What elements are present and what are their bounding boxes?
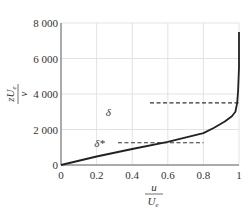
y-label-numerator: zUe xyxy=(4,86,18,102)
data-series xyxy=(61,32,239,165)
y-tick-label: 4 000 xyxy=(33,88,58,100)
y-label-denominator: ν xyxy=(17,91,29,96)
boundary-layer-chart: 00.20.40.60.8102 0004 0006 0008 000 δδ* … xyxy=(0,0,250,209)
x-tick-label: 0.4 xyxy=(125,169,139,181)
x-tick-label: 0.6 xyxy=(161,169,175,181)
x-tick-label: 0 xyxy=(58,169,64,181)
y-tick-label: 8 000 xyxy=(33,17,58,29)
y-tick-label: 6 000 xyxy=(33,53,58,65)
y-label: zUe ν xyxy=(4,84,29,104)
x-tick-label: 1 xyxy=(236,169,242,181)
velocity-profile-line xyxy=(61,32,239,165)
annotation-label: δ* xyxy=(94,137,105,149)
y-tick-label: 2 000 xyxy=(33,124,58,136)
axis-labels: u Ue zUe ν xyxy=(4,84,163,209)
x-tick-label: 0.2 xyxy=(90,169,104,181)
x-tick-label: 0.8 xyxy=(197,169,211,181)
x-label-denominator: Ue xyxy=(147,195,158,209)
x-label-numerator: u xyxy=(151,181,157,193)
tick-labels: 00.20.40.60.8102 0004 0006 0008 000 xyxy=(33,17,242,181)
y-tick-label: 0 xyxy=(53,159,59,171)
grid-lines xyxy=(61,23,239,165)
annotation-label: δ xyxy=(106,106,112,118)
